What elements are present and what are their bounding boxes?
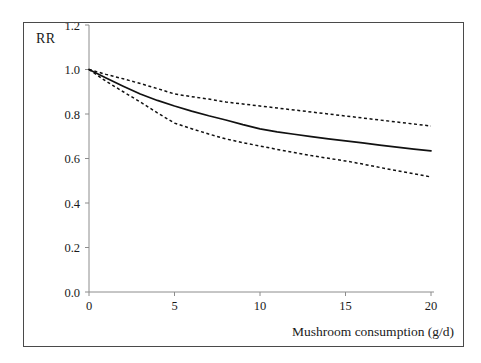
data-series-group xyxy=(89,70,431,177)
y-axis: 0.00.20.40.60.81.01.2 xyxy=(64,23,89,300)
y-tick-label: 0.8 xyxy=(64,108,80,122)
series-line xyxy=(89,70,431,177)
x-tick-label: 10 xyxy=(254,299,267,313)
chart-svg: 0.00.20.40.60.81.01.2 05101520 xyxy=(24,23,465,348)
x-tick-label: 20 xyxy=(425,299,438,313)
y-tick-label: 0.6 xyxy=(64,152,80,166)
x-tick-label: 5 xyxy=(171,299,177,313)
series-line xyxy=(89,70,431,151)
x-axis: 05101520 xyxy=(86,292,437,313)
x-tick-label: 0 xyxy=(86,299,92,313)
series-line xyxy=(89,70,431,127)
x-axis-title: Mushroom consumption (g/d) xyxy=(292,324,454,340)
y-tick-label: 0.2 xyxy=(64,241,80,255)
plot-area: 0.00.20.40.60.81.01.2 05101520 xyxy=(24,23,463,346)
y-tick-label: 0.0 xyxy=(64,286,80,300)
y-tick-label: 1.2 xyxy=(64,23,80,33)
y-tick-label: 0.4 xyxy=(64,197,80,211)
figure-frame: RR 0.00.20.40.60.81.01.2 05101520 Mushro… xyxy=(23,22,464,347)
y-tick-label: 1.0 xyxy=(64,63,80,77)
x-tick-label: 15 xyxy=(339,299,352,313)
